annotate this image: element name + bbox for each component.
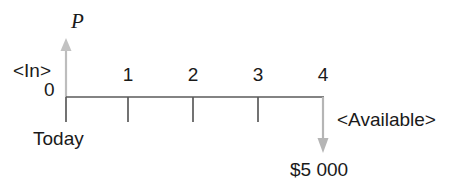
cashflow-svg [0,0,461,195]
origin-label: 0 [44,80,55,99]
tick-label-2: 2 [181,65,205,84]
outflow-arrow-icon [318,97,329,153]
inflow-label: <In> [13,61,51,80]
p-axis-arrow-icon [61,38,72,97]
amount-label: $5 000 [290,160,348,179]
available-label: <Available> [337,110,436,129]
today-caption: Today [33,129,84,148]
cashflow-diagram: P <In> 0 Today 1 2 3 4 <Available> $5 00… [0,0,461,195]
tick-label-3: 3 [246,65,270,84]
tick-label-4: 4 [311,65,335,84]
tick-label-1: 1 [116,65,140,84]
p-axis-label: P [71,11,84,32]
